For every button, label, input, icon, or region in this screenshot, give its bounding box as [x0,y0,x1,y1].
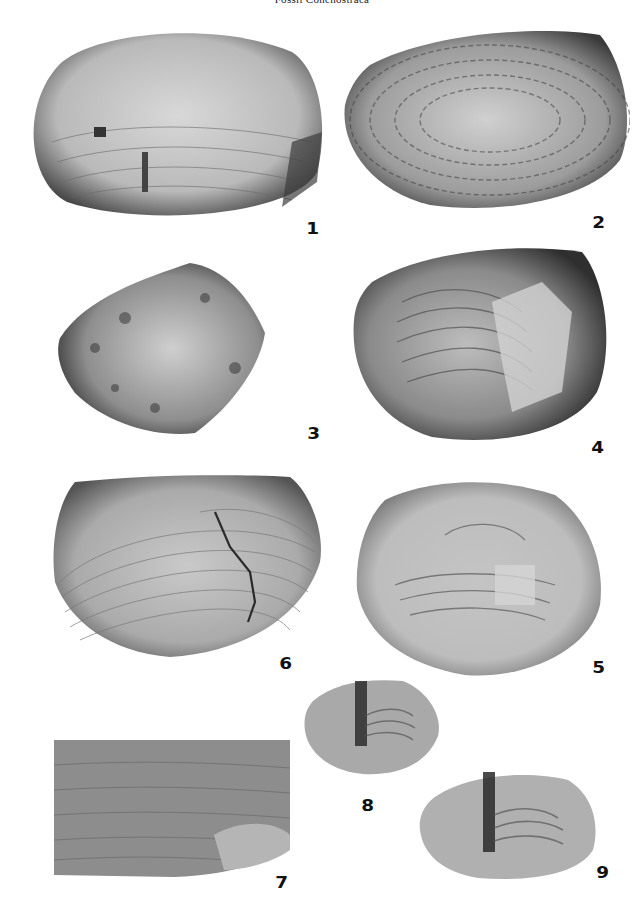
figure-8-label: 8 [361,798,374,814]
figure-1-image [22,22,326,222]
figure-9-label: 9 [596,865,609,881]
figure-6-image [50,472,325,662]
figure-1-label: 1 [306,221,319,237]
figure-2-label: 2 [592,215,605,231]
figure-5-image [355,475,607,680]
figure-9-image [418,770,600,882]
figure-6-label: 6 [279,656,292,672]
figure-3-label: 3 [307,426,320,442]
figure-4-label: 4 [591,440,604,456]
figure-5-label: 5 [592,660,605,676]
figure-2-image [340,25,630,215]
figure-4-image [352,242,614,447]
figure-8-image [303,676,443,776]
running-header: Fossil Conchostraca [0,0,644,5]
figure-7-image [54,740,290,880]
figure-7-label: 7 [275,875,288,891]
figure-3-image [55,258,275,443]
